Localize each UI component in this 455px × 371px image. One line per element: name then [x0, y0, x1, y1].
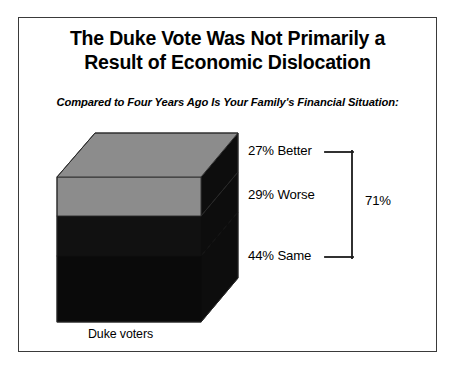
category-axis-label: Duke voters	[88, 327, 153, 341]
bracket-total-label: 71%	[365, 193, 391, 208]
total-bracket	[325, 151, 353, 258]
segment-better-front-face	[57, 177, 201, 216]
segment-label-same: 44% Same	[248, 248, 311, 263]
segment-same-front-face	[57, 256, 201, 322]
segment-worse-front-face	[57, 216, 201, 256]
segment-label-worse: 29% Worse	[248, 187, 315, 202]
segment-label-better: 27% Better	[248, 143, 312, 158]
stacked-column-graphic	[0, 0, 455, 371]
chart-plot-area	[0, 0, 455, 371]
